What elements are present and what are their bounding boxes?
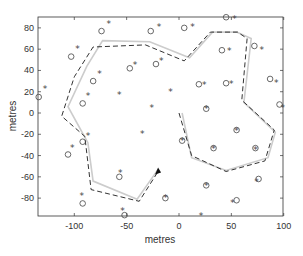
true-landmark-marker: * (190, 22, 195, 32)
y-tick-label: 80 (24, 23, 34, 33)
true-landmark-marker: * (43, 84, 48, 94)
true-landmark-marker: * (150, 103, 155, 113)
true-landmark-marker: * (202, 80, 207, 90)
true-landmark-marker: * (70, 143, 75, 153)
y-tick-label: 20 (24, 87, 34, 97)
true-landmark-marker: * (79, 191, 84, 201)
true-landmark-marker: * (274, 78, 279, 88)
true-landmark-marker: * (75, 44, 80, 54)
y-tick-label: 0 (29, 108, 34, 118)
y-axis-label: metres (7, 101, 18, 132)
true-landmark-marker: * (117, 90, 122, 100)
true-landmark-marker: * (86, 91, 91, 101)
x-tick-label: 100 (276, 221, 291, 231)
true-landmark-marker: * (229, 79, 234, 89)
x-tick-label: 50 (226, 221, 236, 231)
true-landmark-marker: * (159, 56, 164, 66)
y-tick-label: -20 (21, 129, 34, 139)
x-tick-label: 0 (176, 221, 181, 231)
true-landmark-marker: * (157, 22, 162, 32)
true-landmark-marker: * (199, 211, 204, 221)
true-landmark-marker: * (230, 198, 235, 208)
y-tick-label: 40 (24, 65, 34, 75)
true-landmark-marker: * (140, 129, 145, 139)
x-tick-label: -100 (65, 221, 83, 231)
slam-map-chart: -100-50050100-80-60-40-20020406080 *****… (0, 0, 303, 256)
y-tick-label: 60 (24, 44, 34, 54)
true-landmark-marker: * (168, 87, 173, 97)
true-landmark-marker: * (107, 19, 112, 29)
true-landmark-marker: * (227, 46, 232, 56)
true-landmark-marker: * (280, 103, 285, 113)
y-tick-label: -80 (21, 193, 34, 203)
y-tick-label: -40 (21, 151, 34, 161)
true-landmark-marker: * (86, 131, 91, 141)
y-tick-label: -60 (21, 172, 34, 182)
true-landmark-marker: * (133, 60, 138, 70)
true-landmark-marker: * (259, 45, 264, 55)
x-tick-label: -50 (120, 221, 133, 231)
x-axis-label: metres (145, 234, 176, 245)
true-landmark-marker: * (120, 206, 125, 216)
true-landmark-marker: * (232, 14, 237, 24)
true-landmark-marker: * (97, 69, 102, 79)
